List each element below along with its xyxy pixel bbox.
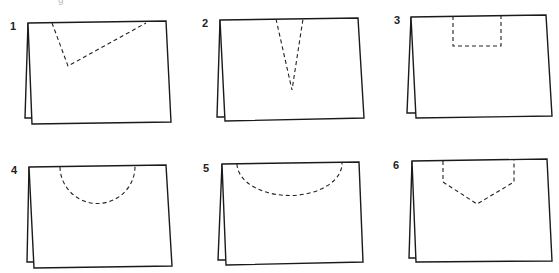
panel-label-6: 6 <box>393 160 399 171</box>
card-4-front-panel <box>29 165 172 268</box>
card-6-front-panel <box>412 159 552 262</box>
card-2 <box>217 18 364 121</box>
card-5 <box>218 162 363 265</box>
panel-label-2: 2 <box>202 18 208 29</box>
folded-card-diagram: g <box>0 0 559 273</box>
panel-label-4: 4 <box>11 165 17 176</box>
cards-drawing <box>0 0 559 273</box>
card-5-front-panel <box>222 162 363 265</box>
card-6 <box>409 159 552 262</box>
panel-label-5: 5 <box>203 163 209 174</box>
panel-label-1: 1 <box>10 21 16 32</box>
card-3-front-panel <box>411 15 552 118</box>
card-1 <box>25 21 171 124</box>
card-1-front-panel <box>28 21 171 124</box>
card-3 <box>407 15 552 118</box>
panel-label-3: 3 <box>394 15 400 26</box>
card-4 <box>27 165 172 268</box>
card-2-front-panel <box>220 18 364 121</box>
